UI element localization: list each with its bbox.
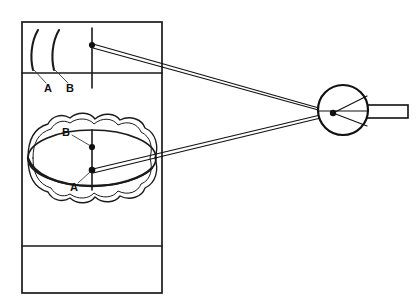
- label-upper-a: A: [44, 82, 52, 94]
- label-lower-a: A: [70, 181, 78, 193]
- eye-nodal-point: [330, 110, 336, 116]
- optical-diagram: A B B A: [0, 0, 419, 306]
- upper-target-point: [89, 42, 95, 48]
- optic-nerve: [366, 105, 408, 118]
- eye-globe: [318, 85, 368, 135]
- label-upper-b: B: [66, 82, 74, 94]
- eye-assembly: [318, 85, 408, 135]
- lower-target-point-b: [89, 144, 95, 150]
- label-lower-b: B: [62, 126, 70, 138]
- diagram-canvas: A B B A: [0, 0, 419, 306]
